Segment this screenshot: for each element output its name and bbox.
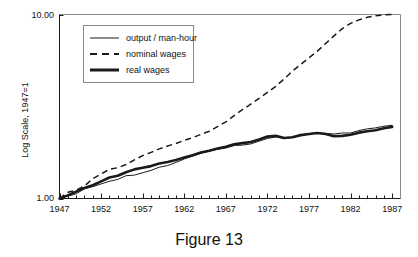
y-tick-label-bottom: 1.00: [36, 193, 54, 203]
chart-canvas: 10.00 1.00 Log Scale, 1947=1 19471952195…: [0, 0, 418, 257]
x-tick-label: 1977: [299, 204, 319, 214]
x-tick-label: 1957: [133, 204, 153, 214]
y-axis-tick-marks: [60, 16, 64, 200]
legend-label-nominal-wages: nominal wages: [126, 49, 187, 59]
y-tick-label-top: 10.00: [31, 10, 54, 20]
x-axis-tick-marks: [61, 194, 393, 199]
x-tick-label: 1987: [382, 204, 402, 214]
legend-label-real-wages: real wages: [126, 65, 170, 75]
chart-legend: output / man-hour nominal wages real wag…: [84, 26, 198, 83]
figure-caption: Figure 13: [175, 231, 243, 248]
x-axis-tick-labels: 194719521957196219671972197719821987: [49, 204, 402, 214]
legend-label-output-per-man-hour: output / man-hour: [126, 33, 197, 43]
x-tick-label: 1967: [216, 204, 236, 214]
x-tick-label: 1962: [174, 204, 194, 214]
series-line-real-wages: [60, 127, 393, 199]
figure-container: 10.00 1.00 Log Scale, 1947=1 19471952195…: [0, 0, 418, 257]
x-tick-label: 1982: [341, 204, 361, 214]
x-tick-label: 1947: [49, 204, 69, 214]
x-tick-label: 1972: [257, 204, 277, 214]
x-tick-label: 1952: [91, 204, 111, 214]
y-axis-title: Log Scale, 1947=1: [20, 82, 30, 157]
